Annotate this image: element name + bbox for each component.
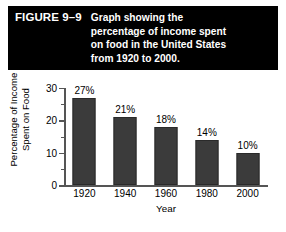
bar (73, 98, 96, 185)
caption-line: from 1920 to 2000. (91, 52, 272, 66)
bar-chart: Percentage of Income Spent on Food 01020… (0, 70, 286, 232)
x-axis-tick-label: 1980 (186, 188, 227, 199)
y-axis-title-line: Spent on Food (20, 62, 32, 178)
figure-container: FIGURE 9–9 Graph showing the percentage … (0, 0, 286, 232)
bar-slot: 21% (105, 88, 146, 185)
bar-value-label: 14% (197, 127, 217, 138)
bar (114, 117, 137, 185)
bar (195, 140, 218, 185)
bar-value-label: 10% (238, 140, 258, 151)
figure-caption-band: FIGURE 9–9 Graph showing the percentage … (8, 6, 278, 70)
y-axis-tick-label: 0 (51, 180, 57, 191)
figure-caption-text: Graph showing the percentage of income s… (91, 11, 272, 65)
caption-line: Graph showing the (91, 11, 272, 25)
y-axis-tick-label: 20 (46, 115, 57, 126)
bar-value-label: 18% (156, 114, 176, 125)
caption-line: percentage of income spent (91, 25, 272, 39)
bar-slot: 14% (186, 88, 227, 185)
bar-slot: 10% (227, 88, 268, 185)
x-axis-line (59, 185, 268, 187)
bar (236, 153, 259, 185)
bar-value-label: 27% (74, 85, 94, 96)
caption-line: on food in the United States (91, 38, 272, 52)
bar-slot: 27% (64, 88, 105, 185)
x-axis-tick-label: 1960 (146, 188, 187, 199)
x-axis-tick-label: 1920 (64, 188, 105, 199)
figure-number-label: FIGURE 9–9 (15, 11, 91, 25)
x-axis-tick-label: 1940 (105, 188, 146, 199)
x-axis-tick-label: 2000 (227, 188, 268, 199)
y-axis-tick-label: 30 (46, 83, 57, 94)
y-axis-tick-label: 10 (46, 147, 57, 158)
y-axis-tick-major (59, 185, 64, 186)
bar (154, 127, 177, 185)
y-axis-title-line: Percentage of Income (8, 62, 20, 178)
chart-axes: 0102030 27%21%18%14%10% 1920194019601980… (64, 88, 268, 185)
bar-series: 27%21%18%14%10% (64, 88, 268, 185)
bar-value-label: 21% (115, 104, 135, 115)
y-axis-title: Percentage of Income Spent on Food (8, 62, 31, 178)
bar-slot: 18% (146, 88, 187, 185)
x-axis-title: Year (64, 203, 268, 214)
